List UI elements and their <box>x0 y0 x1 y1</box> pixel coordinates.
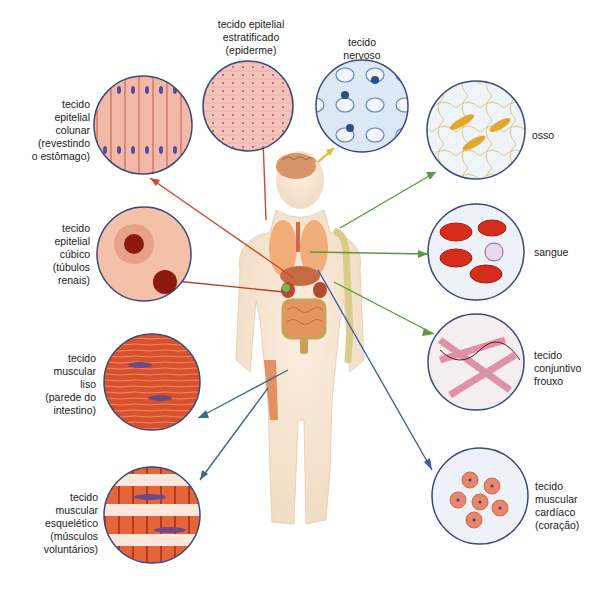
label-stratified-epithelium: tecido epitelialestratificado(epiderme) <box>196 18 306 57</box>
tissue-circle-cuboidal <box>97 207 191 301</box>
human-body-figure <box>236 151 364 524</box>
tissue-circle-blood <box>428 204 524 300</box>
label-skeletal-muscle: tecidomuscularesquelético(músculosvolunt… <box>44 491 98 556</box>
label-cardiac-muscle: tecidomuscularcardíaco(coração) <box>535 480 579 532</box>
label-smooth-muscle: tecidomuscularliso(parede dointestino) <box>45 352 96 417</box>
tissue-circle-stratified <box>203 61 293 151</box>
tissue-circle-cardiac-muscle <box>432 448 528 544</box>
tissue-diagram: tecidoepitelialcolunar(revestindoo estôm… <box>0 0 610 589</box>
tissue-circle-loose-connective <box>428 314 524 410</box>
tissue-circle-bone <box>427 81 525 179</box>
tissue-circle-skeletal-muscle <box>104 467 200 563</box>
tissue-circle-columnar <box>94 76 192 174</box>
label-loose-connective: tecidoconjuntivofrouxo <box>534 349 581 388</box>
label-blood: sangue <box>534 246 568 259</box>
label-columnar-epithelium: tecidoepitelialcolunar(revestindoo estôm… <box>32 98 90 163</box>
label-cuboidal-epithelium: tecidoepitelialcúbico(túbulosrenais) <box>53 222 90 287</box>
label-bone: osso <box>532 129 554 142</box>
label-nervous-tissue: tecidonervoso <box>330 36 394 62</box>
tissue-circle-nervous <box>316 60 408 152</box>
tissue-circle-smooth-muscle <box>104 334 200 430</box>
